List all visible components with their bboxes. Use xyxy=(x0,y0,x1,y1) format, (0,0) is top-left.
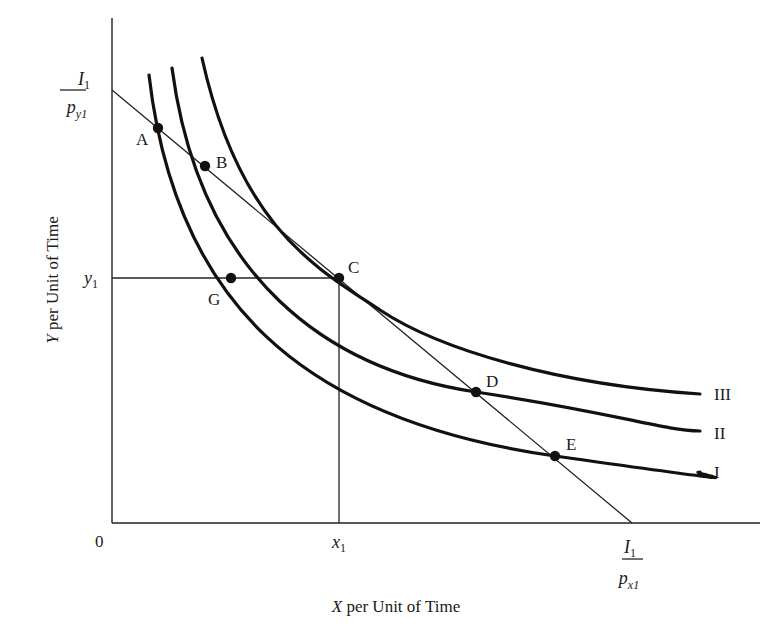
svg-text:I1: I1 xyxy=(623,537,636,560)
svg-text:px1: px1 xyxy=(617,568,639,592)
origin-label: 0 xyxy=(95,532,104,551)
label-point-G: G xyxy=(208,290,220,309)
y-axis-title: Y per Unit of Time xyxy=(43,216,62,344)
label-point-E: E xyxy=(566,435,576,454)
x1-tick-label: x1 xyxy=(331,532,346,555)
label-point-A: A xyxy=(136,130,149,149)
x-intercept-label: I1 px1 xyxy=(617,537,643,592)
label-point-B: B xyxy=(216,153,227,172)
point-D xyxy=(471,387,481,397)
svg-text:I1: I1 xyxy=(77,69,90,92)
label-curve-II: II xyxy=(714,424,726,443)
y1-tick-label: y1 xyxy=(82,268,98,291)
label-point-D: D xyxy=(486,372,498,391)
label-curve-I: I xyxy=(714,463,720,482)
point-G xyxy=(226,273,236,283)
point-C xyxy=(334,273,344,283)
indifference-curve-II xyxy=(172,68,700,431)
indifference-curve-diagram: A B C G D E III II I I1 py1 y1 0 x1 I1 p… xyxy=(0,0,778,642)
x-axis-title: X per Unit of Time xyxy=(331,597,460,616)
point-A xyxy=(153,123,163,133)
point-B xyxy=(200,161,210,171)
indifference-curve-III xyxy=(202,58,700,394)
svg-text:py1: py1 xyxy=(65,97,87,121)
y-intercept-label: I1 py1 xyxy=(60,69,90,121)
label-curve-III: III xyxy=(714,385,731,404)
label-point-C: C xyxy=(348,258,359,277)
point-E xyxy=(550,451,560,461)
